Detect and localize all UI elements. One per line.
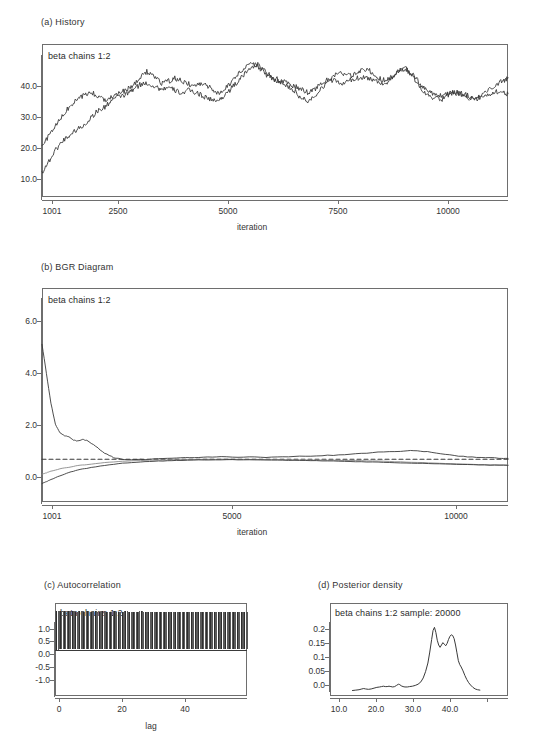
- panel-history-xaxis: [42, 200, 508, 201]
- panel-history-xtickmark-10000: [448, 200, 449, 204]
- panel-autocorrelation-ytickmark-neg05: [50, 667, 54, 668]
- panel-autocorrelation-ytickmark-0: [50, 654, 54, 655]
- panel-density-xtickmark-extra: [487, 698, 488, 702]
- panel-history-xtickmark-5000: [228, 200, 229, 204]
- panel-bgr-xtickmark-5000: [232, 505, 233, 509]
- panel-autocorrelation-ytick-0: 0.0: [16, 649, 50, 659]
- panel-bgr-xlabel: iteration: [237, 527, 267, 537]
- panel-bgr-xtickmark-10000: [456, 505, 457, 509]
- panel-history-ytickmark-30: [37, 117, 41, 118]
- panel-density-ytick-02: 0.2: [288, 624, 325, 634]
- panel-history-ytickmark-10: [37, 179, 41, 180]
- panel-density-xtick-40: 40.0: [442, 704, 459, 714]
- panel-bgr-xtickmark-1001: [52, 505, 53, 509]
- panel-density-ytickmark-0: [325, 685, 329, 686]
- panel-history-traces: [42, 44, 508, 197]
- panel-history-title: (a) History: [41, 17, 85, 27]
- panel-bgr-ytick-6: 6.0: [4, 316, 37, 326]
- panel-density-xtick-10: 10.0: [331, 704, 348, 714]
- panel-history-ytick-40: 40.0: [4, 81, 37, 91]
- acf-baseline: [55, 650, 247, 651]
- panel-autocorrelation-ytickmark-05: [50, 641, 54, 642]
- panel-history-xtickmark-1001: [52, 200, 53, 204]
- panel-bgr-xtick-10000: 10000: [444, 511, 468, 521]
- panel-autocorrelation-xlabel: lag: [145, 721, 156, 731]
- panel-density-ytick-0: 0.0: [288, 680, 325, 690]
- panel-density-xaxis: [330, 698, 508, 699]
- panel-density-ytickmark-01: [325, 657, 329, 658]
- panel-density-ytickmark-015: [325, 643, 329, 644]
- panel-autocorrelation-title: (c) Autocorrelation: [44, 580, 121, 590]
- panel-bgr-ytickmark-2: [37, 425, 41, 426]
- panel-history-xtick-10000: 10000: [436, 206, 460, 216]
- panel-autocorrelation-xtickmark-40: [185, 698, 186, 702]
- panel-autocorrelation-ytick-1: 1.0: [16, 624, 50, 634]
- panel-bgr-xtick-5000: 5000: [223, 511, 242, 521]
- panel-density-ytickmark-02: [325, 629, 329, 630]
- panel-bgr-ytickmark-6: [37, 321, 41, 322]
- panel-bgr-ytickmark-4: [37, 373, 41, 374]
- panel-autocorrelation-ytick-05: 0.5: [16, 636, 50, 646]
- panel-density-curve: [330, 603, 508, 696]
- panel-density-xtick-20: 20.0: [368, 704, 385, 714]
- panel-bgr-ytick-0: 0.0: [4, 472, 37, 482]
- panel-autocorrelation-ytick-neg05: -0.5: [16, 662, 50, 672]
- panel-density-title: (d) Posterior density: [318, 580, 403, 590]
- panel-history-ytickmark-40: [37, 86, 41, 87]
- panel-history-xtick-7500: 7500: [329, 206, 348, 216]
- panel-autocorrelation-ytickmark-neg1: [50, 680, 54, 681]
- panel-density-ytick-005: 0.05: [288, 666, 325, 676]
- panel-autocorrelation-xtickmark-20: [122, 698, 123, 702]
- panel-bgr-ytick-4: 4.0: [4, 368, 37, 378]
- panel-bgr-xtick-1001: 1001: [43, 511, 62, 521]
- panel-density-ytick-01: 0.1: [288, 652, 325, 662]
- panel-history-xtickmark-7500: [338, 200, 339, 204]
- panel-history-ytickmark-20: [37, 148, 41, 149]
- panel-bgr-title: (b) BGR Diagram: [41, 262, 114, 272]
- panel-autocorrelation-xtick-0: 0: [57, 704, 62, 714]
- panel-autocorrelation-xtickmark-0: [59, 698, 60, 702]
- panel-density-xtickmark-10: [339, 698, 340, 702]
- panel-density-xtickmark-40: [450, 698, 451, 702]
- panel-history-xtick-5000: 5000: [219, 206, 238, 216]
- panel-density-ytickmark-005: [325, 671, 329, 672]
- acf-stem: [247, 612, 248, 649]
- panel-autocorrelation-ytickmark-1: [50, 629, 54, 630]
- panel-density-xtickmark-30: [413, 698, 414, 702]
- panel-density-ytick-015: 0.15: [288, 638, 325, 648]
- panel-history-ytick-20: 20.0: [4, 143, 37, 153]
- panel-history-ytick-30: 30.0: [4, 112, 37, 122]
- panel-density-xtickmark-20: [376, 698, 377, 702]
- panel-bgr-curves: [42, 288, 508, 502]
- panel-bgr-xaxis: [42, 505, 508, 506]
- panel-autocorrelation-xaxis: [55, 698, 247, 699]
- panel-bgr-ytick-2: 2.0: [4, 420, 37, 430]
- panel-history-xtickmark-2500: [118, 200, 119, 204]
- panel-history-xtick-2500: 2500: [109, 206, 128, 216]
- panel-history-xtick-1001: 1001: [43, 206, 62, 216]
- panel-autocorrelation-stems: [55, 603, 247, 696]
- panel-bgr-ytickmark-0: [37, 477, 41, 478]
- panel-history-xlabel: iteration: [237, 222, 267, 232]
- panel-autocorrelation-ytick-neg1: -1.0: [16, 675, 50, 685]
- panel-autocorrelation-xtick-40: 40: [180, 704, 189, 714]
- panel-density-xtick-30: 30.0: [405, 704, 422, 714]
- panel-history-ytick-10: 10.0: [4, 174, 37, 184]
- panel-autocorrelation-xtick-20: 20: [117, 704, 126, 714]
